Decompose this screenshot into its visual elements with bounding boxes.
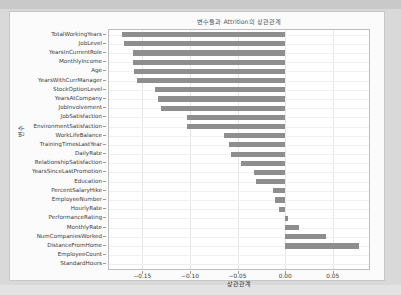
bar bbox=[133, 60, 285, 65]
bar-series bbox=[109, 30, 369, 269]
bar bbox=[187, 124, 285, 129]
y-tick-label: StockOptionLevel bbox=[53, 86, 102, 92]
chart-title: 변수들과 Attrition의 상관관계 bbox=[108, 17, 370, 26]
bar bbox=[161, 106, 285, 111]
y-axis-tick-labels: TotalWorkingYearsJobLevelYearsInCurrentR… bbox=[10, 29, 106, 270]
y-tick-label: MonthlyRate bbox=[67, 224, 102, 230]
y-tick-label: NumCompaniesWorked bbox=[37, 233, 102, 239]
y-tick-label: PercentSalaryHike bbox=[51, 187, 102, 193]
bar bbox=[254, 170, 285, 175]
bar bbox=[231, 152, 285, 157]
y-tick-mark bbox=[103, 245, 106, 246]
y-tick-mark bbox=[103, 144, 106, 145]
y-tick-label: PerformanceRating bbox=[49, 214, 102, 220]
y-tick-mark bbox=[103, 52, 106, 53]
x-tick-mark bbox=[238, 271, 239, 274]
bar bbox=[134, 69, 285, 74]
y-tick-mark bbox=[103, 199, 106, 200]
bar bbox=[229, 142, 285, 147]
bar bbox=[279, 207, 286, 212]
y-tick-mark bbox=[103, 89, 106, 90]
bar bbox=[285, 216, 288, 221]
y-tick-mark bbox=[103, 61, 106, 62]
y-tick-mark bbox=[103, 208, 106, 209]
y-tick-label: JobLevel bbox=[79, 40, 102, 46]
bar bbox=[241, 161, 285, 166]
y-tick-mark bbox=[103, 162, 106, 163]
y-tick-label: StandardHours bbox=[60, 260, 102, 266]
y-tick-mark bbox=[103, 217, 106, 218]
y-tick-mark bbox=[103, 190, 106, 191]
bar bbox=[124, 41, 285, 46]
x-tick-mark bbox=[142, 271, 143, 274]
y-tick-label: TotalWorkingYears bbox=[51, 31, 102, 37]
y-tick-label: Age bbox=[91, 67, 102, 73]
y-tick-mark bbox=[103, 116, 106, 117]
bar bbox=[155, 87, 285, 92]
y-tick-label: TrainingTimesLastYear bbox=[40, 141, 102, 147]
y-tick-label: EmployeeNumber bbox=[52, 196, 102, 202]
y-tick-mark bbox=[103, 107, 106, 108]
y-tick-label: MonthlyIncome bbox=[59, 58, 102, 64]
bar bbox=[285, 234, 326, 239]
bar bbox=[285, 243, 359, 248]
bar bbox=[158, 96, 286, 101]
plot-axes bbox=[108, 29, 370, 270]
y-tick-label: EnvironmentSatisfaction bbox=[33, 123, 102, 129]
y-tick-mark bbox=[103, 34, 106, 35]
y-tick-label: YearsSinceLastPromotion bbox=[32, 168, 102, 174]
x-tick-mark bbox=[285, 271, 286, 274]
y-tick-label: YearsWithCurrManager bbox=[38, 77, 102, 83]
y-tick-label: DailyRate bbox=[75, 150, 102, 156]
y-tick-mark bbox=[103, 181, 106, 182]
bar bbox=[224, 133, 285, 138]
y-tick-mark bbox=[103, 126, 106, 127]
y-tick-label: EmployeeCount bbox=[58, 251, 102, 257]
y-tick-label: HourlyRate bbox=[71, 205, 102, 211]
y-tick-mark bbox=[103, 236, 106, 237]
x-tick-mark bbox=[333, 271, 334, 274]
bar bbox=[275, 197, 285, 202]
y-tick-mark bbox=[103, 80, 106, 81]
bar bbox=[187, 115, 285, 120]
y-tick-mark bbox=[103, 263, 106, 264]
y-tick-label: Education bbox=[74, 178, 102, 184]
y-tick-mark bbox=[103, 171, 106, 172]
y-tick-label: YearsInCurrentRole bbox=[49, 49, 102, 55]
y-tick-label: DistanceFromHome bbox=[47, 242, 102, 248]
x-tick-mark bbox=[190, 271, 191, 274]
window-top-band bbox=[0, 0, 401, 9]
bar bbox=[285, 225, 299, 230]
y-tick-label: YearsAtCompany bbox=[55, 95, 102, 101]
y-tick-mark bbox=[103, 43, 106, 44]
y-tick-label: WorkLifeBalance bbox=[55, 132, 102, 138]
y-tick-label: JobSatisfaction bbox=[61, 113, 102, 119]
x-axis-title: 상관관계 bbox=[108, 279, 370, 288]
y-tick-mark bbox=[103, 254, 106, 255]
bar bbox=[122, 32, 285, 37]
bar bbox=[273, 188, 285, 193]
bar bbox=[133, 50, 285, 55]
y-tick-mark bbox=[103, 227, 106, 228]
y-tick-mark bbox=[103, 98, 106, 99]
y-tick-label: RelationshipSatisfaction bbox=[35, 159, 102, 165]
bar bbox=[256, 179, 286, 184]
y-tick-mark bbox=[103, 70, 106, 71]
chart-screenshot: 변수들과 Attrition의 상관관계 변수 TotalWorkingYear… bbox=[0, 0, 401, 295]
y-tick-label: JobInvolvement bbox=[59, 104, 103, 110]
y-tick-mark bbox=[103, 153, 106, 154]
matplotlib-figure: 변수들과 Attrition의 상관관계 변수 TotalWorkingYear… bbox=[9, 11, 385, 281]
bar bbox=[137, 78, 286, 83]
y-tick-mark bbox=[103, 135, 106, 136]
